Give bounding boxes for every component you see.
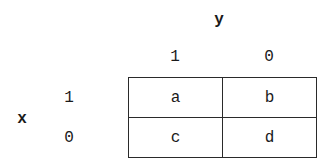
row-header-1: 1 [64,90,74,106]
contingency-table: a b c d [128,77,317,158]
cell-c: c [129,118,223,158]
table-row: c d [129,118,317,158]
column-header-0: 0 [264,49,274,65]
row-variable-label: x [17,111,27,127]
row-header-0: 0 [64,130,74,146]
column-variable-label: y [214,12,224,28]
cell-b: b [223,78,317,118]
table-row: a b [129,78,317,118]
cell-d: d [223,118,317,158]
column-header-1: 1 [170,49,180,65]
cell-a: a [129,78,223,118]
